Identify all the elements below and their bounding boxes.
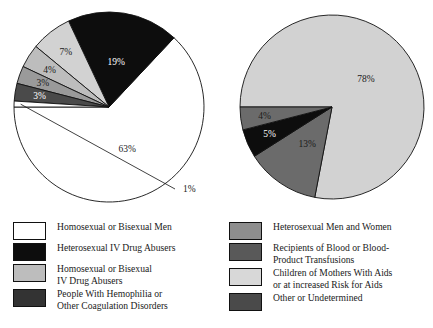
left-pie-chart: 63%19%7%4%3%3% [14,12,204,202]
slice-value-label: 7% [60,47,73,57]
legend-right-label: Children of Mothers With Aids or at incr… [273,267,392,290]
legend-left: Homosexual or Bisexual MenHeterosexual I… [13,221,218,313]
legend-left-swatch [13,264,46,282]
legend-right-item[interactable]: Recipients of Blood or Blood- Product Tr… [229,242,429,265]
legend-left-item[interactable]: Heterosexual IV Drug Abusers [13,242,218,261]
legend-right-label: Recipients of Blood or Blood- Product Tr… [273,242,389,265]
legend-left-swatch [13,243,46,261]
legend-right-swatch [229,243,262,261]
legend-right-label: Other or Undetermined [273,292,363,304]
legend-right-item[interactable]: Heterosexual Men and Women [229,221,429,240]
legend-left-label: Heterosexual IV Drug Abusers [57,242,175,254]
legend-left-item[interactable]: Homosexual or Bisexual IV Drug Abusers [13,263,218,286]
legend-left-item[interactable]: Homosexual or Bisexual Men [13,221,218,240]
slice-value-label: 5% [263,129,276,139]
slice-value-label: 63% [118,144,136,154]
legend-left-swatch [13,222,46,240]
legend-right-swatch [229,268,262,286]
slice-value-label: 3% [33,91,46,101]
legend-right-item[interactable]: Children of Mothers With Aids or at incr… [229,267,429,290]
legend-left-label: Homosexual or Bisexual IV Drug Abusers [57,263,152,286]
legend-left-swatch [13,289,46,307]
slice-value-label: 78% [357,74,375,84]
legend-right: Heterosexual Men and WomenRecipients of … [229,221,429,313]
right-pie-chart: 78%13%5%4% [240,15,424,199]
slice-value-label: 4% [258,111,271,121]
legend-right-label: Heterosexual Men and Women [273,221,392,233]
slice-value-label: 19% [107,57,125,67]
slice-value-label: 4% [43,65,56,75]
legend-right-item[interactable]: Other or Undetermined [229,292,429,311]
callout-value-label: 1% [183,184,196,194]
slice-value-label: 13% [298,139,316,149]
legend-left-label: People With Hemophilia or Other Coagulat… [57,288,168,311]
legend-left-item[interactable]: People With Hemophilia or Other Coagulat… [13,288,218,311]
legend-right-swatch [229,293,262,311]
legend-right-swatch [229,222,262,240]
slice-value-label: 3% [37,78,50,88]
legend-left-label: Homosexual or Bisexual Men [57,221,172,233]
aids-transmission-pie-figure: 63%19%7%4%3%3% 78%13%5%4% 1% Homosexual … [0,0,433,328]
